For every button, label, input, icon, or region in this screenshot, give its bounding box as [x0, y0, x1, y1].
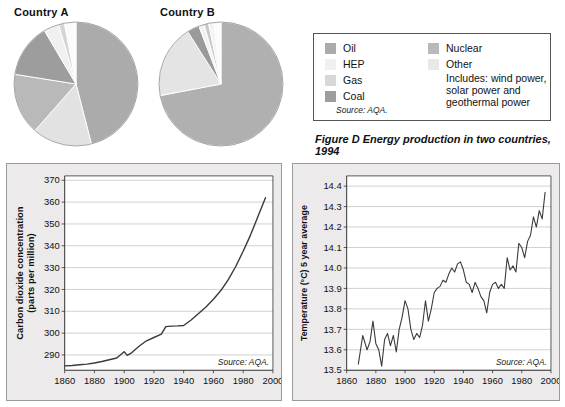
x-axis-tick-label: 1980	[511, 375, 532, 386]
x-axis-tick-label: 1960	[482, 375, 503, 386]
chart-source-label: Source: AQA.	[218, 357, 269, 367]
y-axis-tick-label: 13.6	[323, 344, 341, 355]
pie-chart-country-a	[12, 20, 140, 148]
legend-swatch-nuclear	[428, 43, 439, 54]
x-axis-tick-label: 1880	[365, 375, 386, 386]
y-axis-tick-label: 14.1	[323, 242, 341, 253]
legend-column-right: Nuclear Other Includes: wind power, sola…	[428, 41, 546, 108]
x-axis-tick-label: 1960	[203, 375, 224, 386]
legend-swatch-hep	[325, 59, 336, 70]
y-axis-tick-label: 340	[44, 240, 60, 251]
x-axis-tick-label: 1900	[395, 375, 416, 386]
x-axis-tick-label: 1920	[143, 375, 164, 386]
x-axis-tick-label: 2000	[262, 375, 281, 386]
legend-note-line-3: geothermal power	[446, 97, 546, 109]
y-axis-tick-label: 13.8	[323, 303, 341, 314]
co2-chart-panel: 2903003103203303403503603701860188019001…	[6, 163, 282, 401]
figure-caption: Figure D Energy production in two countr…	[315, 133, 565, 157]
y-axis-tick-label: 300	[44, 327, 60, 338]
pie-title-country-b: Country B	[160, 6, 215, 18]
y-axis-title: (parts per million)	[25, 233, 36, 312]
legend-label-gas: Gas	[343, 75, 362, 86]
y-axis-title: Temperature (°C) 5 year average	[299, 205, 309, 341]
legend-item-gas: Gas	[325, 73, 365, 88]
legend-swatch-gas	[325, 75, 336, 86]
y-axis-tick-label: 310	[44, 305, 60, 316]
x-axis-tick-label: 2000	[540, 375, 559, 386]
figure-root: Country A Country B Oil HEP Gas	[0, 0, 565, 407]
legend-swatch-oil	[325, 43, 336, 54]
legend-item-other: Other	[428, 57, 546, 72]
legend-label-coal: Coal	[343, 91, 365, 102]
x-axis-tick-label: 1940	[453, 375, 474, 386]
y-axis-tick-label: 14.0	[323, 262, 341, 273]
legend-source: Source: AQA.	[336, 105, 388, 115]
chart-source-label: Source: AQA.	[496, 357, 547, 367]
legend-item-nuclear: Nuclear	[428, 41, 546, 56]
plot-background	[65, 176, 273, 370]
x-axis-tick-label: 1980	[233, 375, 254, 386]
pie-svg-country-b	[157, 20, 285, 148]
legend-item-oil: Oil	[325, 41, 365, 56]
legend-swatch-other	[428, 59, 439, 70]
y-axis-tick-label: 14.4	[323, 180, 341, 191]
legend-item-coal: Coal	[325, 89, 365, 104]
legend-note-line-2: solar power and	[446, 85, 546, 97]
y-axis-tick-label: 360	[44, 196, 60, 207]
y-axis-tick-label: 290	[44, 349, 60, 360]
pie-svg-country-a	[12, 20, 140, 148]
legend-label-other: Other	[446, 59, 472, 70]
y-axis-title: Carbon dioxide concentration	[14, 206, 25, 340]
pie-chart-country-b	[157, 20, 285, 148]
y-axis-tick-label: 14.2	[323, 221, 341, 232]
co2-chart-svg: 2903003103203303403503603701860188019001…	[7, 164, 281, 400]
y-axis-tick-label: 13.7	[323, 324, 341, 335]
legend-box: Oil HEP Gas Coal Nuclear Other	[313, 33, 551, 121]
x-axis-tick-label: 1880	[84, 375, 105, 386]
legend-label-nuclear: Nuclear	[446, 43, 482, 54]
y-axis-tick-label: 13.5	[323, 364, 341, 375]
legend-item-hep: HEP	[325, 57, 365, 72]
x-axis-tick-label: 1860	[336, 375, 357, 386]
x-axis-tick-label: 1860	[54, 375, 75, 386]
y-axis-tick-label: 14.3	[323, 201, 341, 212]
y-axis-tick-label: 350	[44, 218, 60, 229]
legend-label-hep: HEP	[343, 59, 365, 70]
pie-title-country-a: Country A	[14, 6, 69, 18]
x-axis-tick-label: 1920	[424, 375, 445, 386]
y-axis-tick-label: 320	[44, 284, 60, 295]
x-axis-tick-label: 1940	[173, 375, 194, 386]
y-axis-tick-label: 13.9	[323, 283, 341, 294]
y-axis-tick-label: 370	[44, 174, 60, 185]
legend-swatch-coal	[325, 91, 336, 102]
y-axis-tick-label: 330	[44, 262, 60, 273]
temperature-chart-svg: 13.513.613.713.813.914.014.114.214.314.4…	[293, 164, 559, 400]
temperature-chart-panel: 13.513.613.713.813.914.014.114.214.314.4…	[292, 163, 560, 401]
x-axis-tick-label: 1900	[114, 375, 135, 386]
legend-label-oil: Oil	[343, 43, 356, 54]
legend-column-left: Oil HEP Gas Coal	[325, 41, 365, 105]
